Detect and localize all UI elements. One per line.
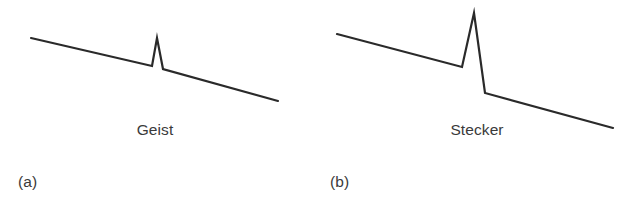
pitch-contour-a [0, 0, 315, 212]
panel-b: Stecker (b) [315, 0, 630, 212]
word-label-stecker: Stecker [450, 122, 503, 138]
contour-line-b [337, 13, 613, 128]
figure-root: Geist (a) Stecker (b) [0, 0, 630, 212]
panel-label-b: (b) [330, 174, 349, 190]
pitch-contour-b [315, 0, 630, 212]
panel-a: Geist (a) [0, 0, 315, 212]
panel-label-a: (a) [18, 174, 37, 190]
contour-line-a [31, 38, 278, 101]
word-label-geist: Geist [137, 122, 174, 138]
